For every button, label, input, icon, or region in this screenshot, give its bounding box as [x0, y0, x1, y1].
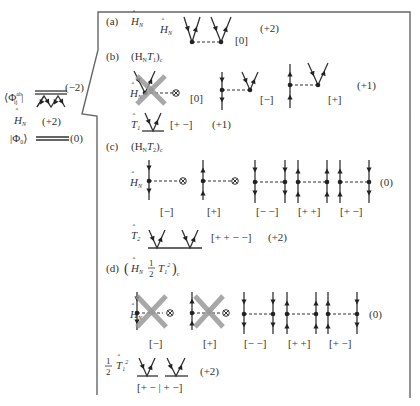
- section-d-bracket-2: [+]: [203, 337, 217, 349]
- section-d-t-frac-den: 2: [106, 367, 111, 377]
- section-a-excitation: (+2): [260, 22, 279, 35]
- level-diagram: ⟨Φabij| (−2) HN ˆ (+2) |Φ0⟩ (0): [4, 81, 84, 145]
- section-c-bracket-1: [−]: [160, 205, 174, 217]
- svg-text:ˆ: ˆ: [117, 354, 120, 363]
- diagram-b2: [219, 72, 258, 110]
- section-c-bracket-4: [+ +]: [298, 205, 320, 217]
- section-c-tag: (c): [106, 140, 119, 153]
- hn-hat: ˆ: [15, 108, 18, 117]
- section-c-excitation: (0): [380, 176, 393, 189]
- section-d-bracket-5: [+ −]: [329, 337, 351, 349]
- diagram-d1-crossed: [134, 292, 173, 330]
- ket-level: (0): [70, 132, 83, 145]
- diagram-d5: [325, 292, 359, 334]
- section-d-excitation: (0): [369, 308, 382, 321]
- diagram-b3: [287, 63, 328, 108]
- section-d-frac-num: 1: [149, 258, 154, 268]
- diagram-d2-crossed: [189, 292, 229, 330]
- section-b-title: (HNT1)c: [131, 50, 163, 63]
- svg-text:ˆ: ˆ: [132, 10, 135, 19]
- diagram-c2: [200, 160, 238, 200]
- ket-label: |Φ0⟩: [10, 132, 28, 145]
- section-d-paren-open: (: [124, 261, 129, 277]
- section-b-bracket-1: [0]: [190, 92, 203, 104]
- diagram-d3: [241, 292, 275, 334]
- t1-squared-vertices: [137, 358, 188, 376]
- section-d-title-t: T12: [158, 262, 170, 275]
- svg-text:ˆ: ˆ: [132, 113, 135, 122]
- diagram-c1: [146, 160, 186, 200]
- section-d-paren-close: )c: [172, 261, 180, 277]
- bra-label: ⟨Φabij|: [4, 91, 24, 105]
- section-d-bracket-4: [+ +]: [288, 337, 310, 349]
- section-a: (a) HN ˆ HN ˆ [0] (+2): [106, 10, 279, 46]
- section-c: (c) (HNT2)c HN ˆ [−] [+]: [106, 140, 393, 248]
- diagram-c3: [252, 160, 287, 203]
- t2-vertex: [148, 230, 202, 248]
- vertex-a-right: [211, 17, 231, 42]
- section-a-bracket: [0]: [235, 34, 248, 46]
- section-c-title: (HNT2)c: [131, 140, 163, 153]
- svg-text:ˆ: ˆ: [132, 224, 135, 233]
- section-b-tag: (b): [106, 50, 119, 63]
- t1-vertex: [142, 113, 164, 131]
- section-d-t-excitation: (+2): [200, 365, 219, 378]
- section-b-t-excitation: (+1): [212, 118, 231, 131]
- section-c-bracket-3: [− −]: [256, 205, 278, 217]
- diagram-c5: [337, 160, 371, 203]
- section-c-bracket-2: [+]: [207, 205, 221, 217]
- svg-text:ˆ: ˆ: [131, 171, 134, 180]
- section-d-bracket-1: [−]: [149, 337, 163, 349]
- diagram-c4: [295, 160, 329, 203]
- section-c-t-bracket: [+ + − −]: [211, 231, 251, 243]
- section-d-t-bracket: [+ − | + −]: [137, 381, 182, 393]
- svg-text:ˆ: ˆ: [131, 303, 134, 312]
- section-b-bracket-3: [+]: [328, 93, 342, 105]
- section-b-excitation: (+1): [357, 79, 376, 92]
- section-d-bracket-3: [− −]: [244, 337, 266, 349]
- section-d-tag: (d): [106, 262, 119, 275]
- section-b-t-bracket: [+ −]: [170, 118, 192, 130]
- svg-text:ˆ: ˆ: [131, 82, 134, 91]
- section-a-tag: (a): [106, 15, 119, 28]
- section-d-frac-den: 2: [149, 269, 154, 279]
- svg-text:ˆ: ˆ: [132, 257, 135, 266]
- section-c-bracket-5: [+ −]: [340, 205, 362, 217]
- bra-level: (−2): [65, 81, 84, 94]
- svg-text:ˆ: ˆ: [161, 18, 164, 27]
- hn-level: (+2): [42, 115, 61, 128]
- vertex-a-left: [184, 17, 200, 42]
- section-c-t-excitation: (+2): [268, 231, 287, 244]
- section-b: (b) (HNT1)c HN ˆ [0]: [106, 50, 376, 131]
- section-b-bracket-2: [−]: [260, 93, 274, 105]
- diagram-d4: [284, 292, 318, 334]
- diagram-b1-crossed: [134, 71, 179, 104]
- section-d-t-frac-num: 1: [106, 356, 111, 366]
- section-d: (d) ( HN ˆ 1 2 T12 )c HN ˆ [−]: [105, 257, 382, 393]
- diagram-canvas: ⟨Φabij| (−2) HN ˆ (+2) |Φ0⟩ (0) (a) HN ˆ…: [0, 0, 420, 406]
